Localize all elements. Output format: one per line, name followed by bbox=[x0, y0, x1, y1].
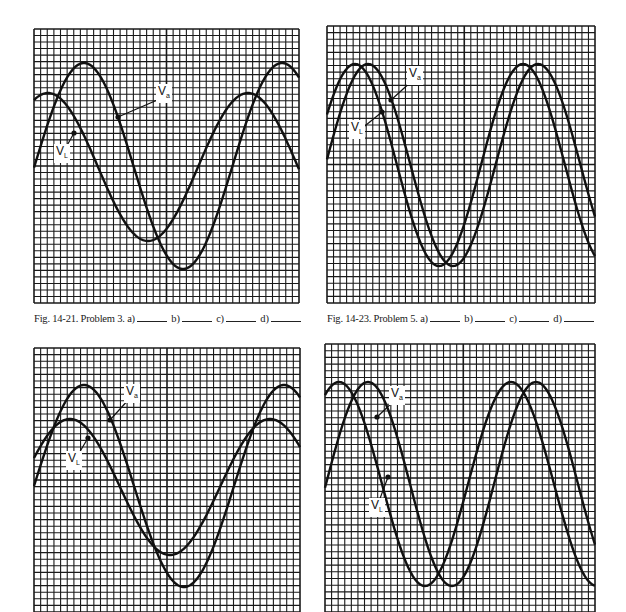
arrowhead-icon bbox=[374, 414, 379, 419]
trace-label-subscript: L bbox=[379, 506, 383, 513]
trace-label-subscript: L bbox=[76, 459, 80, 466]
trace-label-main: V bbox=[391, 386, 399, 400]
answer-label-a: a) bbox=[420, 313, 428, 324]
answer-label-d: d) bbox=[260, 313, 268, 324]
answer-label-b: b) bbox=[464, 313, 472, 324]
trace-label-main: V bbox=[56, 144, 64, 158]
trace-label-vl: VL bbox=[349, 120, 365, 139]
trace-label-main: V bbox=[371, 498, 379, 512]
trace-label-subscript: a bbox=[399, 394, 403, 401]
trace-label-va: Va bbox=[124, 384, 140, 403]
oscilloscope-grid-fig-14-23: VaVL bbox=[327, 26, 595, 303]
trace-label-main: V bbox=[126, 384, 134, 398]
answer-label-b: b) bbox=[171, 313, 179, 324]
trace-label-va: Va bbox=[156, 84, 172, 103]
grid-svg bbox=[325, 344, 595, 612]
trace-label-subscript: L bbox=[359, 128, 363, 135]
answer-blank-d[interactable] bbox=[564, 312, 594, 322]
caption-title: Fig. 14-21. Problem 3. bbox=[34, 313, 125, 324]
trace-label-main: V bbox=[409, 66, 417, 80]
oscilloscope-grid-fig-14-22: VaVL bbox=[34, 348, 300, 612]
arrowhead-icon bbox=[379, 109, 384, 114]
answer-blank-b[interactable] bbox=[182, 312, 212, 322]
answer-blank-a[interactable] bbox=[430, 312, 460, 322]
answer-blank-a[interactable] bbox=[137, 312, 167, 322]
graticule bbox=[325, 344, 595, 612]
trace-label-main: V bbox=[68, 451, 76, 465]
answer-blank-b[interactable] bbox=[475, 312, 505, 322]
answer-label-c: c) bbox=[509, 313, 517, 324]
grid-svg bbox=[34, 348, 300, 612]
answer-blank-c[interactable] bbox=[226, 312, 256, 322]
caption-title: Fig. 14-23. Problem 5. bbox=[327, 313, 418, 324]
trace-label-subscript: L bbox=[64, 152, 68, 159]
arrowhead-icon bbox=[385, 474, 390, 479]
trace-label-va: Va bbox=[389, 386, 405, 405]
answer-label-d: d) bbox=[553, 313, 561, 324]
trace-label-vl: VL bbox=[369, 498, 385, 517]
grid-svg bbox=[327, 26, 595, 303]
trace-label-subscript: a bbox=[134, 392, 138, 399]
answer-blank-c[interactable] bbox=[519, 312, 549, 322]
caption-fig-14-23: Fig. 14-23. Problem 5. a) b) c) d) bbox=[327, 312, 596, 324]
waveform-vl bbox=[325, 382, 595, 586]
answer-blank-d[interactable] bbox=[271, 312, 301, 322]
trace-label-main: V bbox=[351, 120, 359, 134]
arrowhead-icon bbox=[85, 435, 90, 440]
oscilloscope-grid-fig-14-24: VaVL bbox=[325, 344, 595, 612]
trace-label-subscript: a bbox=[166, 92, 170, 99]
arrowhead-icon bbox=[107, 417, 112, 422]
grid-svg bbox=[34, 29, 299, 303]
arrowhead-icon bbox=[388, 97, 393, 102]
arrowhead-icon bbox=[115, 114, 120, 119]
trace-label-main: V bbox=[158, 84, 166, 98]
caption-fig-14-21: Fig. 14-21. Problem 3. a) b) c) d) bbox=[34, 312, 303, 324]
trace-label-vl: VL bbox=[54, 144, 70, 163]
arrowhead-icon bbox=[71, 130, 76, 135]
trace-label-va: Va bbox=[407, 66, 423, 85]
trace-label-subscript: a bbox=[417, 74, 421, 81]
oscilloscope-grid-fig-14-21: VaVL bbox=[34, 29, 299, 303]
trace-label-vl: VL bbox=[66, 451, 82, 470]
answer-label-c: c) bbox=[216, 313, 224, 324]
answer-label-a: a) bbox=[127, 313, 135, 324]
